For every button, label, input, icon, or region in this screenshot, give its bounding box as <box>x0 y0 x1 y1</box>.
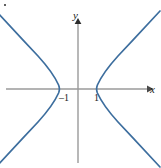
plot-canvas <box>0 0 161 168</box>
x-axis-label: x <box>150 84 155 95</box>
x-tick-label-negative-one: –1 <box>59 93 69 103</box>
hyperbola-figure: y x –1 1 <box>0 0 161 168</box>
y-axis-label: y <box>73 10 78 21</box>
x-tick-label-positive-one: 1 <box>94 93 99 103</box>
